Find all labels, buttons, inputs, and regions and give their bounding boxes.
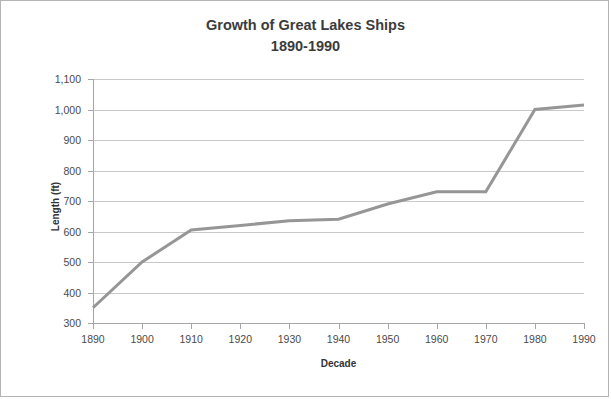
y-axis-tick [88, 201, 93, 202]
x-axis-tick-label: 1940 [316, 333, 362, 345]
chart-title: Growth of Great Lakes Ships 1890-1990 [1, 15, 610, 57]
x-axis-tick-label: 1890 [70, 333, 116, 345]
y-axis-tick-label: 300 [35, 317, 81, 329]
y-axis-tick [88, 293, 93, 294]
y-axis-tick-label: 400 [35, 287, 81, 299]
x-axis-tick [339, 324, 340, 329]
x-axis-tick [535, 324, 536, 329]
y-axis-tick [88, 140, 93, 141]
y-axis-tick-label: 600 [35, 226, 81, 238]
y-axis-tick-label: 1,100 [35, 73, 81, 85]
x-axis-tick [437, 324, 438, 329]
x-axis-tick [142, 324, 143, 329]
series-line-ship-length [93, 79, 584, 324]
x-axis-tick-label: 1910 [168, 333, 214, 345]
y-axis-tick-label: 500 [35, 256, 81, 268]
x-axis-tick-label: 1990 [561, 333, 607, 345]
y-axis-tick [88, 171, 93, 172]
x-axis-tick [289, 324, 290, 329]
chart-title-line1: Growth of Great Lakes Ships [1, 15, 610, 36]
y-axis-tick-label: 900 [35, 134, 81, 146]
x-axis-tick-label: 1980 [512, 333, 558, 345]
y-axis-tick-label: 1,000 [35, 104, 81, 116]
x-axis-tick-label: 1950 [365, 333, 411, 345]
x-axis-tick [584, 324, 585, 329]
x-axis-tick-label: 1970 [463, 333, 509, 345]
y-axis-tick [88, 262, 93, 263]
y-axis-tick-label: 700 [35, 195, 81, 207]
x-axis-tick [93, 324, 94, 329]
chart-title-line2: 1890-1990 [1, 36, 610, 57]
chart-frame: Growth of Great Lakes Ships 1890-1990 Le… [0, 0, 609, 397]
x-axis-tick-label: 1930 [266, 333, 312, 345]
x-axis-tick [388, 324, 389, 329]
x-axis-tick-label: 1960 [414, 333, 460, 345]
y-axis-tick [88, 79, 93, 80]
x-axis-tick-label: 1920 [217, 333, 263, 345]
y-axis-tick [88, 232, 93, 233]
x-axis-title: Decade [93, 358, 584, 369]
x-axis-tick [240, 324, 241, 329]
x-axis-tick-label: 1900 [119, 333, 165, 345]
x-axis-tick [191, 324, 192, 329]
x-axis-tick [486, 324, 487, 329]
y-axis-tick-label: 800 [35, 165, 81, 177]
y-axis-tick [88, 110, 93, 111]
